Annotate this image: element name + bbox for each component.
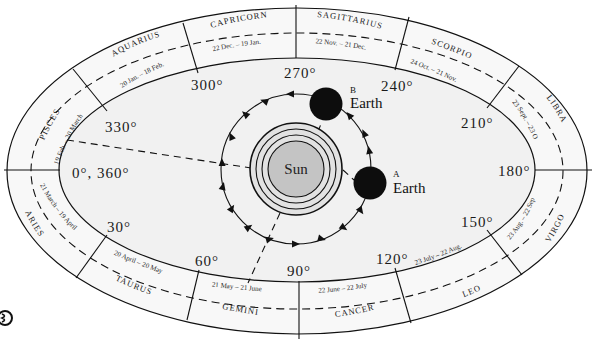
corner-logo-icon <box>0 311 12 325</box>
degree-120: 120° <box>376 251 409 267</box>
earth-a-label: Earth <box>393 180 426 196</box>
degree-150: 150° <box>461 214 494 230</box>
degree-180: 180° <box>498 163 531 179</box>
earth-b-circle <box>310 88 343 121</box>
degree-210: 210° <box>461 115 494 131</box>
degree-30: 30° <box>107 219 131 235</box>
degree-0: 0°, 360° <box>72 165 130 181</box>
degree-90: 90° <box>287 263 311 279</box>
earth-a-marker: A <box>393 169 400 179</box>
degree-60: 60° <box>195 253 219 269</box>
earth-a-circle <box>354 167 387 200</box>
sun-label: Sun <box>284 161 308 177</box>
degree-270: 270° <box>284 65 317 81</box>
earth-b-label: Earth <box>350 95 383 111</box>
degree-330: 330° <box>105 119 138 135</box>
degree-240: 240° <box>381 78 414 94</box>
sun: Sun <box>250 123 342 215</box>
degree-300: 300° <box>191 77 224 93</box>
zodiac-diagram: PISCES AQUARIUS CAPRICORN SAGITTARIUS SC… <box>0 0 593 346</box>
earth-b-marker: B <box>350 85 356 95</box>
